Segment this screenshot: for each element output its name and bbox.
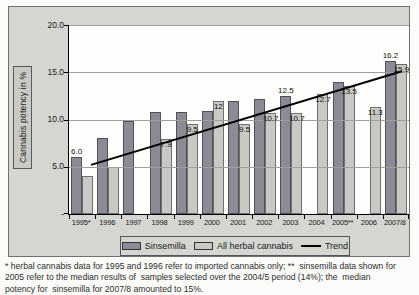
legend-color-swatch <box>194 242 213 250</box>
y-tick-label: - <box>37 209 64 220</box>
x-axis-label-2004: 2004 <box>303 218 329 228</box>
x-axis-label-2007/8: 2007/8 <box>382 218 408 228</box>
x-axis-labels: 1995*19961997199819992000200120022003200… <box>68 218 408 228</box>
legend-label: Trend <box>325 241 348 251</box>
cannabis-potency-chart: Cannabis potency in % 20.015.010.05.0- 6… <box>8 6 410 257</box>
x-axis-label-2006: 2006 <box>356 218 382 228</box>
y-tick-label: 15.0 <box>37 67 64 78</box>
footnote: * herbal cannabis data for 1995 and 1996… <box>5 261 415 295</box>
footnote-line-3: potency for sinsemilla for 2007/8 amount… <box>5 284 415 295</box>
y-tick-label: 20.0 <box>37 20 64 31</box>
x-axis-label-2001: 2001 <box>225 218 251 228</box>
legend-label: All herbal cannabis <box>217 241 293 251</box>
legend: SinsemillaAll herbal cannabisTrend <box>120 236 350 256</box>
legend-label: Sinsemilla <box>145 241 186 251</box>
trend-line <box>69 25 409 214</box>
x-axis-label-1999: 1999 <box>173 218 199 228</box>
y-tick-label: 5.0 <box>37 161 64 172</box>
x-axis-label-1997: 1997 <box>120 218 146 228</box>
legend-color-swatch <box>122 242 141 250</box>
x-axis-label-1995*: 1995* <box>68 218 94 228</box>
x-axis-label-2003: 2003 <box>277 218 303 228</box>
legend-item-all-herbal-cannabis: All herbal cannabis <box>194 241 293 251</box>
y-axis-title: Cannabis potency in % <box>13 66 32 169</box>
trend-line-swatch <box>301 245 321 247</box>
plot-area: 6.07.99.5129.510.712.510.712.713.511.316… <box>68 25 409 215</box>
legend-item-trend: Trend <box>301 241 348 251</box>
x-axis-label-1996: 1996 <box>94 218 120 228</box>
footnote-line-1: * herbal cannabis data for 1995 and 1996… <box>5 261 415 272</box>
x-axis-label-1998: 1998 <box>146 218 172 228</box>
legend-item-sinsemilla: Sinsemilla <box>122 241 186 251</box>
x-axis-label-2005**: 2005** <box>330 218 356 228</box>
x-axis-label-2000: 2000 <box>199 218 225 228</box>
footnote-line-2: 2005 refer to the median results of samp… <box>5 272 415 283</box>
x-axis-label-2002: 2002 <box>251 218 277 228</box>
y-tick-label: 10.0 <box>37 114 64 125</box>
x-tickmark <box>408 214 409 219</box>
